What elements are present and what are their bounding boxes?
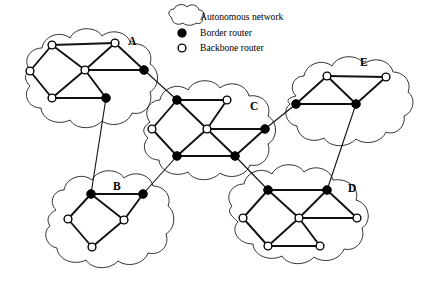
legend-cloud-icon: [169, 5, 204, 26]
backbone-router-d4: [295, 214, 303, 222]
backbone-router-d7: [316, 242, 324, 250]
backbone-router-c2: [223, 96, 231, 104]
backbone-router-d6: [264, 242, 272, 250]
backbone-router-e1: [323, 72, 331, 80]
backbone-router-b5: [88, 243, 96, 251]
cloud-label-d: D: [348, 182, 356, 194]
cloud-outline-e: [286, 57, 413, 146]
border-router-d1: [264, 186, 273, 195]
border-router-a7: [102, 94, 111, 103]
border-router-c5: [261, 125, 270, 134]
backbone-router-c4: [203, 125, 211, 133]
backbone-router-b3: [64, 215, 72, 223]
cloud-label-e: E: [360, 56, 368, 68]
network-diagram-figure: ACEBD Autonomous network Border router B…: [0, 0, 425, 285]
cloud-outlines: [26, 29, 413, 268]
backbone-router-d5: [353, 214, 361, 222]
backbone-router-a4: [81, 66, 89, 74]
cloud-label-c: C: [250, 100, 258, 112]
legend-label-autonomous-network: Autonomous network: [200, 11, 284, 22]
border-router-c6: [173, 152, 182, 161]
cloud-label-a: A: [128, 35, 137, 47]
legend-backbone-router-icon: [178, 44, 186, 52]
border-router-c1: [173, 96, 182, 105]
backbone-router-c3: [148, 125, 156, 133]
backbone-router-a2: [111, 39, 119, 47]
legend-label-backbone-router: Backbone router: [200, 42, 264, 53]
backbone-router-d3: [239, 214, 247, 222]
border-router-b1: [87, 190, 96, 199]
backbone-router-b4: [120, 216, 128, 224]
diagram-canvas: ACEBD Autonomous network Border router B…: [0, 0, 425, 285]
border-router-d2: [323, 186, 332, 195]
legend-label-border-router: Border router: [200, 27, 253, 38]
backbone-router-a3: [26, 67, 34, 75]
cloud-label-b: B: [113, 180, 121, 192]
legend: Autonomous network Border router Backbon…: [169, 5, 284, 53]
legend-border-router-icon: [178, 29, 186, 37]
backbone-router-e2: [382, 73, 390, 81]
backbone-router-a6: [48, 94, 56, 102]
border-router-b2: [139, 190, 148, 199]
link-e1-e2: [327, 76, 386, 77]
border-router-e4: [352, 100, 361, 109]
backbone-router-a1: [48, 41, 56, 49]
border-router-a5: [140, 66, 149, 75]
border-router-e3: [292, 100, 301, 109]
border-router-c7: [231, 152, 240, 161]
